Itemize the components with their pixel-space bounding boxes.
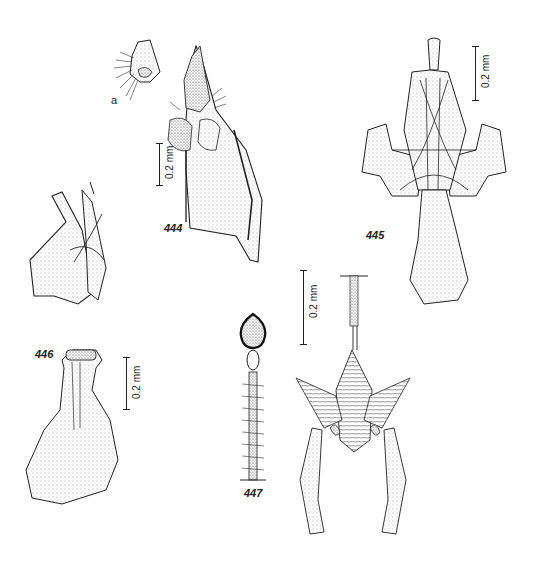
figure-447-label: 447: [244, 487, 262, 499]
figure-444-label: 444: [164, 222, 182, 234]
figure-444a-label: a: [111, 94, 117, 106]
figure-446-label: 446: [35, 348, 53, 360]
figure-446-drawing: [26, 350, 118, 504]
illustration-plate: a 444 445 446 447 0.2 mm 0.2 mm 0.2 mm 0…: [0, 0, 543, 562]
figure-443-drawing: [30, 182, 106, 304]
figure-447a-drawing: [240, 314, 266, 480]
figure-445-label: 445: [366, 229, 384, 241]
figure-444a-drawing: [114, 40, 160, 100]
plate-drawings: [0, 0, 543, 562]
